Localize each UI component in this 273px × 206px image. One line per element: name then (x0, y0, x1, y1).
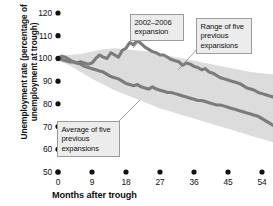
x-tick-dot (225, 169, 230, 174)
callout-2002-2006-expansion: 2002–2006 expansion (130, 14, 184, 41)
y-tick-label: 70 (26, 122, 52, 132)
callout-range-five-previous-expansions: Range of five previous expansions (196, 18, 252, 54)
y-tick-label: 60 (26, 144, 52, 154)
y-tick-label: 50 (26, 167, 52, 177)
x-tick-dot (123, 169, 128, 174)
y-tick-dot (55, 33, 60, 38)
x-tick-dot (157, 169, 162, 174)
y-tick-label: 100 (26, 53, 52, 63)
x-tick-dot (55, 169, 60, 174)
x-tick-label: 45 (216, 177, 240, 187)
x-tick-dot (89, 169, 94, 174)
x-tick-dot (259, 169, 264, 174)
x-axis-title: Months after trough (52, 190, 137, 200)
x-tick-label: 0 (46, 177, 70, 187)
x-tick-label: 54 (250, 177, 273, 187)
x-tick-label: 18 (114, 177, 138, 187)
y-tick-dot (55, 79, 60, 84)
y-tick-dot (55, 101, 60, 106)
x-tick-label: 36 (182, 177, 206, 187)
y-tick-label: 120 (26, 8, 52, 18)
y-tick-label: 110 (26, 31, 52, 41)
x-tick-label: 27 (148, 177, 172, 187)
y-tick-label: 80 (26, 99, 52, 109)
callout-average-five-previous-expansions: Average of five previous expansions (57, 121, 120, 157)
x-axis-tick-dots (55, 169, 264, 174)
y-tick-dot (55, 56, 60, 61)
y-tick-dot (55, 10, 60, 15)
x-tick-dot (191, 169, 196, 174)
x-tick-label: 9 (80, 177, 104, 187)
chart-figure: Unemployment rate (percentage of unemplo… (0, 0, 273, 206)
y-tick-label: 90 (26, 76, 52, 86)
